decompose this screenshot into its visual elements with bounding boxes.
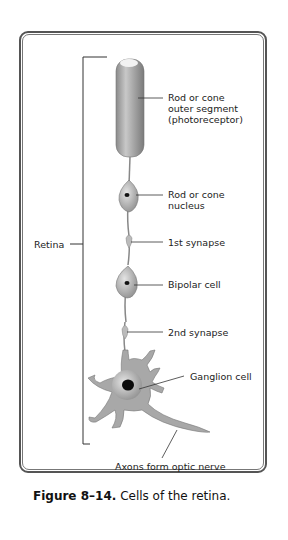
rod-outer-segment: [116, 59, 144, 157]
label-second-synapse: 2nd synapse: [168, 327, 228, 338]
retina-diagram: [0, 0, 288, 540]
figure-caption: Figure 8–14. Cells of the retina.: [33, 489, 230, 503]
label-bipolar-cell: Bipolar cell: [168, 279, 221, 290]
label-ganglion-cell: Ganglion cell: [190, 371, 252, 382]
rod-nucleus-cell: [119, 180, 138, 212]
bipolar-cell: [116, 266, 137, 298]
label-outer-segment: Rod or cone outer segment (photoreceptor…: [168, 92, 243, 125]
ganglion-cell: [88, 350, 210, 432]
label-retina: Retina: [34, 239, 64, 250]
label-axons: Axons form optic nerve: [115, 461, 226, 472]
first-synapse: [126, 235, 132, 248]
label-nucleus: Rod or cone nucleus: [168, 189, 225, 211]
label-first-synapse: 1st synapse: [168, 237, 225, 248]
figure-number: Figure 8–14.: [33, 489, 116, 503]
figure-title: Cells of the retina.: [120, 489, 230, 503]
